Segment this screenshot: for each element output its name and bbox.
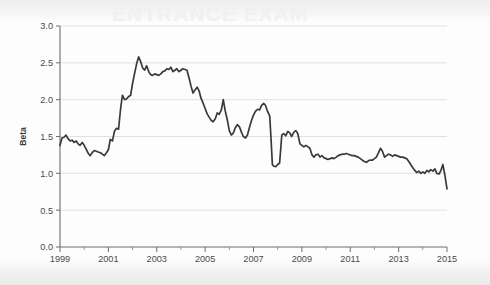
x-tick-label: 2001 — [98, 254, 118, 264]
y-tick-label: 2.5 — [40, 58, 53, 68]
y-tick-label: 0.5 — [40, 206, 53, 216]
beta-series-line — [60, 57, 447, 189]
x-tick-label: 2009 — [292, 254, 312, 264]
y-tick-labels: 0.00.51.01.52.02.53.0 — [40, 21, 53, 252]
chart-svg: 0.00.51.01.52.02.53.0 199920012003200520… — [0, 0, 490, 285]
screenshot-page: ENTRANCE EXAM 0.00.51.01.52.02.53.0 1999… — [0, 0, 490, 285]
x-tick-label: 1999 — [50, 254, 70, 264]
y-tick-label: 1.0 — [40, 169, 53, 179]
y-tick-marks — [56, 26, 60, 247]
x-tick-label: 2011 — [340, 254, 360, 264]
y-axis-label: Beta — [18, 127, 28, 146]
gridlines-group — [60, 26, 447, 210]
x-tick-label: 2007 — [243, 254, 263, 264]
beta-line-chart-figure: 0.00.51.01.52.02.53.0 199920012003200520… — [0, 0, 490, 285]
y-tick-label: 0.0 — [40, 242, 53, 252]
x-tick-labels: 199920012003200520072009201120132015 — [50, 254, 457, 264]
y-tick-label: 1.5 — [40, 132, 53, 142]
x-tick-label: 2015 — [437, 254, 457, 264]
y-tick-label: 2.0 — [40, 95, 53, 105]
x-tick-label: 2013 — [388, 254, 408, 264]
x-tick-marks — [60, 247, 447, 252]
y-tick-label: 3.0 — [40, 21, 53, 31]
x-tick-label: 2005 — [195, 254, 215, 264]
x-tick-label: 2003 — [147, 254, 167, 264]
